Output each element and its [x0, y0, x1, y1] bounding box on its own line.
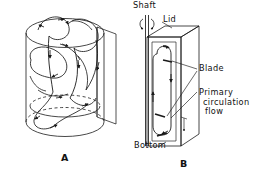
- flow-line-a7: [34, 92, 56, 129]
- cylinder-bottom-front-arc: [26, 122, 104, 137]
- label-bottom: Bottom: [134, 141, 166, 151]
- flow-line-a1: [38, 17, 69, 40]
- caption-panel-a: A: [61, 152, 69, 163]
- flow-line-a5: [70, 48, 77, 98]
- caption-panel-b: B: [180, 158, 188, 169]
- flow-line-a13: [30, 76, 46, 91]
- flow-line-a2: [68, 19, 98, 51]
- cylinder-bottom-back-arc: [26, 107, 104, 122]
- flow-line-a12-arrow: [56, 97, 62, 98]
- cylinder-inner-front-arc: [30, 106, 100, 117]
- flow-line-a3-vertical: [48, 36, 53, 92]
- panel-a-cylinder: [26, 17, 116, 137]
- label-shaft: Shaft: [133, 1, 156, 11]
- label-blade: Blade: [199, 64, 224, 74]
- flow-line-a14: [72, 21, 92, 30]
- shaft-rotation-arrow-right: [151, 19, 154, 29]
- box-top-face: [147, 26, 199, 37]
- baffle-panel-a: [97, 27, 116, 124]
- flow-line-a5-arrow: [78, 60, 79, 68]
- shaft-rotation-arrow-left: [140, 19, 143, 29]
- label-primary-circulation-flow-line3: flow: [205, 107, 223, 117]
- flow-line-a4-arrow: [52, 74, 58, 77]
- flow-line-a11: [60, 44, 80, 60]
- flow-line-a2-arrow: [58, 19, 64, 20]
- flow-line-a8: [70, 98, 96, 106]
- panel-b-box: [140, 15, 199, 147]
- leader-primary-flow: [171, 92, 197, 118]
- loop-arrow-top: [163, 47, 169, 48]
- flow-line-a7-arrow2: [50, 125, 57, 128]
- label-lid: Lid: [163, 15, 176, 25]
- leader-blade-lower: [167, 71, 197, 116]
- primary-circulation-loop: [153, 46, 171, 135]
- flow-line-a9: [56, 104, 88, 124]
- figure-root: Shaft Lid Blade Primary circulation flow…: [0, 0, 261, 178]
- flow-line-a10: [78, 56, 88, 90]
- blade-lower: [155, 114, 165, 117]
